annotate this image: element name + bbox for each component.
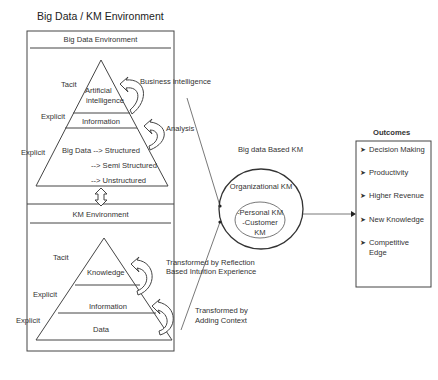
explicit-outer-label: Explicit: [21, 148, 45, 157]
pyramid-level-knowledge: Knowledge: [87, 268, 125, 277]
arrow-bullet-icon: ➤: [360, 169, 366, 176]
double-arrow-icon: [95, 188, 107, 206]
outcome-item-continued: Edge: [369, 248, 387, 257]
outcome-item: ➤New Knowledge: [360, 215, 424, 224]
big-data-unstructured: --> Unstructured: [91, 176, 146, 185]
arrow-bullet-icon: ➤: [360, 146, 366, 153]
big-data-env-header: Big Data Environment: [30, 35, 171, 44]
outcome-item: ➤Productivity: [360, 168, 408, 177]
outcome-item: ➤Decision Making: [360, 145, 425, 154]
explicit-label: Explicit: [41, 112, 65, 121]
arrow-bullet-icon: ➤: [360, 239, 366, 246]
big-data-km-title: Big data Based KM: [238, 145, 303, 154]
km-tacit-label: Tacit: [53, 253, 69, 262]
tacit-label: Tacit: [61, 80, 77, 89]
context-label-1: Transformed by: [195, 306, 248, 315]
km-explicit-label: Explicit: [33, 290, 57, 299]
pyramid-level-data: Data: [93, 325, 109, 334]
reflection-label-1: Transformed by Reflection: [166, 258, 255, 267]
pyramid-level-information: Information: [82, 117, 120, 126]
outcome-item: ➤Competitive: [360, 238, 409, 247]
arrow-bullet-icon: ➤: [360, 192, 366, 199]
customer-km-label-1: -Customer: [230, 218, 290, 227]
pyramid-level-km-information: Information: [89, 302, 127, 311]
context-label-2: Adding Context: [195, 316, 247, 325]
pyramid-level-ai-2: intelligence: [86, 96, 124, 105]
customer-km-label-2: KM: [230, 228, 290, 237]
km-explicit-outer-label: Explicit: [16, 316, 40, 325]
pyramid-level-ai-1: Artificial: [85, 86, 112, 95]
outcome-item: ➤Higher Revenue: [360, 191, 424, 200]
reflection-label-2: Based Intuition Experience: [166, 267, 256, 276]
diagram-title: Big Data / KM Environment: [37, 10, 164, 22]
curved-arrow-icon: [152, 299, 173, 335]
big-data-semi-structured: --> Semi Structured: [91, 161, 157, 170]
outcomes-title: Outcomes: [373, 128, 410, 137]
curved-arrow-icon: [144, 119, 164, 150]
analysis-label: Analysis: [166, 124, 194, 133]
outcomes-box: [356, 141, 431, 287]
curved-arrow-icon: [131, 257, 152, 295]
km-env-header: KM Environment: [30, 210, 171, 219]
personal-km-label: -Personal KM: [230, 208, 290, 217]
organizational-km-label: Organizational KM: [221, 182, 301, 191]
big-data-structured: Big Data --> Structured: [62, 146, 140, 155]
business-intelligence-label: Business intelligence: [140, 77, 211, 86]
arrow-bullet-icon: ➤: [360, 216, 366, 223]
